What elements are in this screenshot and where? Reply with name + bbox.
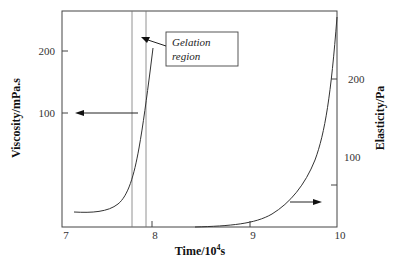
x-tick-label-10: 10 <box>335 229 347 241</box>
gelation-annotation-line1: Gelation <box>172 36 211 48</box>
arrow-right-icon <box>313 199 322 205</box>
x-axis-title-suffix: s <box>221 244 226 258</box>
gelation-pointer-line <box>148 40 166 46</box>
x-axis-title: Time/104s <box>175 243 226 258</box>
gelation-annotation-line2: region <box>172 50 201 62</box>
right-tick-label-100: 100 <box>344 151 361 163</box>
left-tick-label-100: 100 <box>39 107 56 119</box>
left-tick-label-200: 200 <box>39 45 56 57</box>
chart: 200 100 200 100 7 8 9 10 Gelation region… <box>0 0 400 270</box>
left-axis-title: Viscosity/mPa.s <box>9 78 23 158</box>
x-tick-label-7: 7 <box>63 229 69 241</box>
arrow-left-icon <box>75 110 84 116</box>
x-axis-title-base: Time/10 <box>175 244 217 258</box>
right-tick-label-200: 200 <box>348 73 365 85</box>
right-axis-title: Elasticity/Pa <box>373 86 387 151</box>
x-tick-label-9: 9 <box>250 229 256 241</box>
x-tick-label-8: 8 <box>152 229 158 241</box>
viscosity-curve <box>74 48 153 212</box>
